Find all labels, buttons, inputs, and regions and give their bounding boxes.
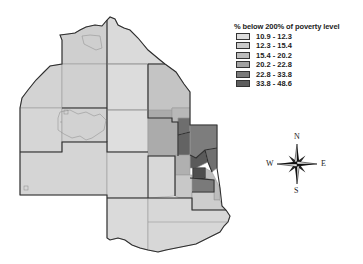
choropleth-map <box>0 0 240 264</box>
region-east-mid-c <box>175 155 190 175</box>
region-center-mid-left <box>62 108 107 142</box>
legend-class-5: 22.8 - 33.8 <box>234 70 363 79</box>
region-center-upper-left <box>62 64 107 108</box>
legend-class-4: 20.2 - 22.8 <box>234 60 363 69</box>
legend-swatch <box>236 61 250 68</box>
region-south-center <box>107 152 175 198</box>
legend-class-3: 15.4 - 20.2 <box>234 51 363 60</box>
compass-east-label: E <box>321 159 326 168</box>
region-center-mid <box>107 110 148 152</box>
legend-title: % below 200% of poverty level <box>234 22 363 31</box>
legend-class-1: 10.9 - 12.3 <box>234 32 363 41</box>
region-west-mid <box>20 108 62 152</box>
compass-north-label: N <box>294 132 300 141</box>
compass-south-label: S <box>294 186 298 195</box>
legend-swatch <box>236 33 250 40</box>
compass-west-label: W <box>266 159 274 168</box>
legend-swatch <box>236 42 250 49</box>
legend-label: 12.3 - 15.4 <box>256 41 292 50</box>
legend-label: 33.8 - 48.6 <box>256 79 292 88</box>
legend-label: 10.9 - 12.3 <box>256 32 292 41</box>
legend-label: 20.2 - 22.8 <box>256 60 292 69</box>
legend-label: 15.4 - 20.2 <box>256 51 292 60</box>
legend-class-6: 33.8 - 48.6 <box>234 79 363 88</box>
legend-swatch <box>236 80 250 87</box>
region-west-upper <box>20 64 62 108</box>
region-east-mid-d <box>175 175 192 198</box>
region-core-6 <box>193 168 205 178</box>
compass-rose: N S W E <box>266 133 328 195</box>
legend-swatch <box>236 71 250 78</box>
region-core-3 <box>178 132 190 158</box>
region-center-upper <box>107 64 148 110</box>
map-legend: % below 200% of poverty level 10.9 - 12.… <box>234 22 363 88</box>
legend-label: 22.8 - 33.8 <box>256 70 292 79</box>
legend-class-2: 12.3 - 15.4 <box>234 41 363 50</box>
legend-swatch <box>236 52 250 59</box>
